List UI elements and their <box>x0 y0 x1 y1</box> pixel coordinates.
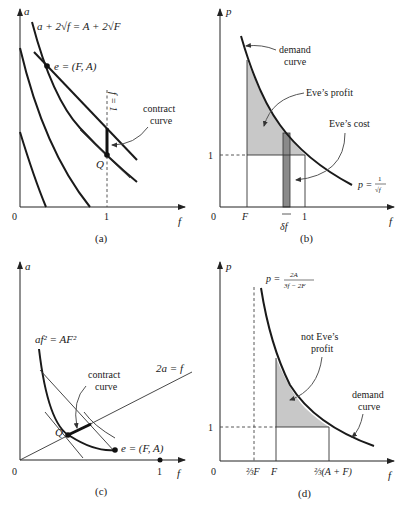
profit-region <box>247 60 305 155</box>
equation-den: √f <box>375 186 382 194</box>
not-profit-label-2: profit <box>311 343 333 354</box>
equation-c: af² = AF² <box>35 333 77 345</box>
x-tick-1: 1 <box>104 211 109 222</box>
label-q: Q <box>96 158 104 170</box>
contract-curve-arrow <box>112 127 148 145</box>
x-tick-delta-f: δf <box>280 221 289 232</box>
label-e: e = (F, A) <box>54 60 97 73</box>
contract-curve-label-2: curve <box>95 381 118 392</box>
label-q: Q <box>55 426 63 438</box>
panel-c: a f 0 1 2a = f Q e = (F, A) af² = AF² co… <box>12 260 192 498</box>
cost-label: Eve’s cost <box>329 118 370 129</box>
contract-curve-arrow <box>76 386 86 428</box>
x-axis-label: f <box>388 469 393 481</box>
profit-label: Eve’s profit <box>306 87 353 98</box>
equation-lhs: p = <box>357 179 372 190</box>
contract-curve <box>68 424 91 435</box>
demand-label: demand <box>279 44 311 55</box>
x-tick-F: F <box>270 466 278 477</box>
demand-arrow <box>246 46 276 51</box>
x-axis-label: f <box>177 467 182 479</box>
panel-a: a f 0 1 f = 1 Q e = (F, A) a + 2√f = A +… <box>12 5 185 245</box>
caption-a: (a) <box>95 232 108 245</box>
contract-curve-label: contract <box>143 103 175 114</box>
equation-num: 1 <box>378 175 382 183</box>
demand-label: demand <box>352 389 384 400</box>
y-axis-label: p <box>225 260 232 272</box>
demand-label-2: curve <box>358 401 381 412</box>
vertical-line-label: f = 1 <box>108 92 119 112</box>
cost-arrow <box>296 133 345 180</box>
panel-d: p f 0 ⅔F F ⅔(A + F) 1 p = 2A 3f − 2F not… <box>208 260 394 500</box>
y-tick-1: 1 <box>208 422 213 433</box>
figure-canvas: a f 0 1 f = 1 Q e = (F, A) a + 2√f = A +… <box>0 0 407 513</box>
x-tick-F: F <box>241 211 249 222</box>
cost-bar <box>283 133 290 207</box>
x-axis-label: f <box>178 215 183 227</box>
x-tick-1: 1 <box>157 466 162 477</box>
indifference-curve-3 <box>32 22 137 182</box>
y-axis-label: p <box>225 5 232 17</box>
origin-label: 0 <box>12 466 17 477</box>
x-tick-1: 1 <box>302 211 307 222</box>
point-f1 <box>158 458 163 463</box>
origin-label: 0 <box>211 211 216 222</box>
x-tick-two-thirds-F: ⅔F <box>246 466 261 477</box>
origin-label: 0 <box>211 466 216 477</box>
point-e <box>112 447 118 453</box>
equation-num: 2A <box>290 271 299 279</box>
demand-label-2: curve <box>284 56 307 67</box>
label-e: e = (F, A) <box>121 442 164 455</box>
origin-label: 0 <box>12 211 17 222</box>
y-axis-label: a <box>24 5 30 17</box>
not-profit-label: not Eve’s <box>301 331 339 342</box>
equation-lhs: p = <box>265 273 280 284</box>
caption-c: (c) <box>95 485 108 498</box>
x-axis-label: f <box>389 215 394 227</box>
y-tick-1: 1 <box>208 150 213 161</box>
point-q <box>104 152 110 158</box>
line-label: 2a = f <box>156 362 185 374</box>
not-profit-region <box>276 358 329 427</box>
contract-curve-label: contract <box>88 369 120 380</box>
point-e <box>44 63 50 69</box>
tangent-q <box>45 412 83 458</box>
contract-curve-label-2: curve <box>150 115 173 126</box>
indifference-curve-1 <box>20 132 46 207</box>
equation-den: 3f − 2F <box>283 282 306 290</box>
y-axis-label: a <box>25 260 31 272</box>
equation-a: a + 2√f = A + 2√F <box>37 20 121 32</box>
caption-d: (d) <box>298 487 311 500</box>
indifference-curve <box>39 349 115 450</box>
demand-arrow <box>352 414 363 437</box>
point-q <box>65 432 71 438</box>
caption-b: (b) <box>300 232 313 245</box>
x-tick-two-thirds-A-plus-F: ⅔(A + F) <box>314 466 353 478</box>
panel-b: p f 0 F δf 1 1 demand curve Eve’s profit… <box>208 5 394 245</box>
